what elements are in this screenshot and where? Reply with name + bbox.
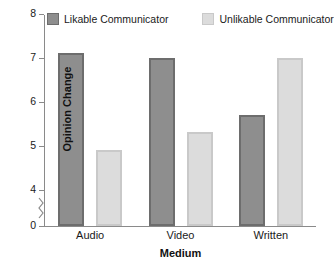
bar-group <box>45 15 135 226</box>
x-axis-tick-label: Written <box>226 229 316 241</box>
bar <box>239 115 265 226</box>
y-axis-title: Opinion Change <box>61 44 73 174</box>
y-axis-tick-label: 5 <box>30 139 36 152</box>
bar <box>149 58 175 226</box>
y-axis-tick: 8 <box>39 14 44 15</box>
x-axis-line <box>44 226 316 227</box>
bar <box>187 132 213 225</box>
plot-area: 045678 Opinion Change <box>44 15 316 227</box>
y-axis-tick: 5 <box>39 146 44 147</box>
y-axis-tick-label: 0 <box>30 219 36 232</box>
bar-group <box>136 15 226 226</box>
y-axis-tick-label: 8 <box>30 7 36 20</box>
x-axis-tick-label: Video <box>135 229 225 241</box>
y-axis-tick-label: 6 <box>30 95 36 108</box>
bars-layer <box>45 15 316 226</box>
y-axis-tick-label: 7 <box>30 51 36 64</box>
bar-group <box>226 15 316 226</box>
x-axis-tick-labels: AudioVideoWritten <box>45 229 316 241</box>
y-axis-tick-label: 4 <box>30 183 36 196</box>
x-axis-tick-label: Audio <box>45 229 135 241</box>
y-axis-tick: 7 <box>39 58 44 59</box>
bar <box>277 58 303 226</box>
bar <box>96 150 122 226</box>
y-axis-tick: 0 <box>39 226 44 227</box>
y-axis-tick: 6 <box>39 102 44 103</box>
y-axis-tick: 4 <box>39 190 44 191</box>
x-axis-title: Medium <box>45 247 316 259</box>
